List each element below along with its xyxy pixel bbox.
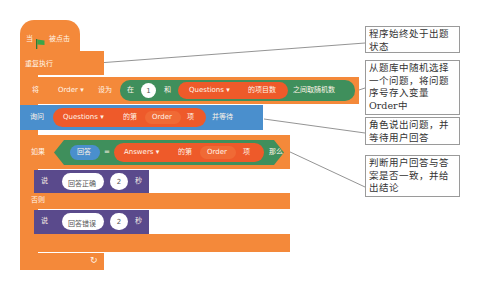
random-reporter[interactable]: 在 1 和 Questions ▾ 的项目数 之间取随机数: [120, 80, 355, 101]
index-name: Order: [207, 149, 227, 156]
equals-operator[interactable]: 回答 = Answers ▾ 的第 Order 项: [54, 140, 284, 165]
ask-suffix: 并等待: [212, 114, 233, 121]
if-else-block[interactable]: 如果 回答 = Answers ▾ 的第 Order 项 那么: [20, 135, 290, 169]
forever-block[interactable]: 重复执行: [20, 51, 104, 75]
forever-label: 重复执行: [25, 61, 53, 68]
list-dropdown[interactable]: Questions ▾: [189, 87, 230, 94]
message-text: 回答错误: [68, 218, 96, 228]
list-name: Answers: [124, 148, 153, 156]
seconds-input[interactable]: 2: [110, 173, 128, 190]
if-label: 如果: [31, 149, 45, 156]
seconds-unit: 秒: [135, 218, 142, 225]
ask-verb: 询问: [30, 114, 44, 121]
answer-label: 回答: [77, 149, 91, 156]
if-else-bottom: [20, 234, 290, 252]
variable-name: Order: [58, 86, 78, 94]
say-correct-block[interactable]: 说 回答正确 2 秒: [34, 170, 149, 194]
loop-arrow-icon: ↻: [90, 255, 98, 265]
list-length-reporter[interactable]: Questions ▾ 的项目数: [178, 82, 288, 99]
hat-prefix: 当: [26, 36, 33, 43]
list-item-reporter[interactable]: Questions ▾ 的第 Order 项: [53, 108, 206, 127]
set-variable-block[interactable]: 将 Order ▾ 设为 在 1 和 Questions ▾ 的项目数 之间取随…: [20, 77, 359, 104]
say-wrong-block[interactable]: 说 回答错误 2 秒: [34, 210, 149, 234]
forever-bottom: ↻: [20, 253, 104, 270]
item-prefix: 的第: [123, 114, 137, 121]
list-name: Questions: [189, 86, 224, 94]
list-name: Questions: [63, 113, 98, 121]
variable-dropdown[interactable]: Order ▾: [58, 87, 84, 94]
green-flag-icon: [36, 34, 45, 44]
note-forever: 程序始终处于出题状态: [365, 26, 460, 53]
index-name: Order: [152, 114, 172, 121]
else-label: 否则: [31, 197, 45, 204]
message-text: 回答正确: [68, 178, 96, 188]
note-if: 判断用户回答与答案是否一致，并给出结论: [365, 155, 460, 197]
random-suffix: 之间取随机数: [293, 87, 335, 94]
seconds-unit: 秒: [135, 178, 142, 185]
equals-sign: =: [104, 149, 110, 156]
random-prefix: 在: [127, 87, 134, 94]
note-ask: 角色说出问题，并等待用户回答: [365, 117, 460, 145]
list-length-suffix: 的项目数: [248, 87, 276, 94]
note-random: 从题库中随机选择一个问题，将问题序号存入变量Order中: [365, 60, 460, 115]
set-to-label: 设为: [98, 87, 112, 94]
list-dropdown[interactable]: Answers ▾: [124, 149, 159, 156]
set-verb: 将: [32, 87, 39, 94]
index-reporter[interactable]: Order: [145, 111, 181, 124]
random-min-input[interactable]: 1: [141, 83, 156, 98]
item-prefix: 的第: [178, 149, 192, 156]
then-label: 那么: [269, 149, 283, 156]
message-input[interactable]: 回答错误: [62, 213, 104, 230]
list-dropdown[interactable]: Questions ▾: [63, 114, 104, 121]
else-bar: 否则: [20, 193, 290, 209]
ask-and-wait-block[interactable]: 询问 Questions ▾ 的第 Order 项 并等待: [20, 105, 263, 130]
hat-suffix: 被点击: [49, 36, 70, 43]
answers-item-reporter[interactable]: Answers ▾ 的第 Order 项: [114, 143, 264, 162]
item-suffix: 项: [187, 114, 194, 121]
say-verb: 说: [41, 178, 48, 185]
random-and: 和: [164, 87, 171, 94]
index-reporter[interactable]: Order: [200, 146, 236, 159]
say-verb: 说: [41, 218, 48, 225]
message-input[interactable]: 回答正确: [62, 173, 104, 190]
item-suffix: 项: [243, 149, 250, 156]
seconds-input[interactable]: 2: [110, 213, 128, 230]
answer-reporter[interactable]: 回答: [70, 145, 100, 160]
